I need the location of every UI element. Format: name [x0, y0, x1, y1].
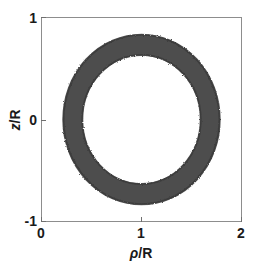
plot-area [41, 17, 242, 222]
figure-container: 0 1 2 1 0 -1 ρ/R z/R [0, 0, 257, 269]
xtick-label-0: 0 [37, 226, 45, 240]
annulus-plot-svg [42, 18, 242, 222]
x-axis-title: ρ/R [130, 246, 153, 260]
xtick-label-1: 1 [137, 226, 145, 240]
ytick-label-minus1: -1 [25, 214, 37, 228]
x-axis-unit: R [142, 245, 152, 261]
y-axis-unit: R [7, 109, 23, 119]
y-axis-symbol: z [7, 124, 23, 131]
y-axis-separator: / [7, 120, 23, 124]
xtick-mark-1 [141, 217, 142, 222]
annulus-band [42, 18, 242, 222]
ytick-mark-top [41, 17, 46, 18]
xtick-label-2: 2 [237, 226, 245, 240]
ytick-mark-bottom [41, 221, 46, 222]
ytick-label-0: 0 [29, 113, 37, 127]
xtick-mark-2 [241, 217, 242, 222]
y-axis-title: z/R [8, 109, 22, 130]
ytick-label-1: 1 [29, 11, 37, 25]
ytick-mark-mid [41, 120, 46, 121]
